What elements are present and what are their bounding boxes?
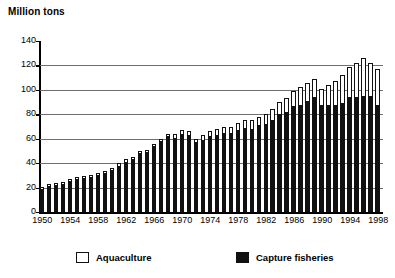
bar-segment-capture-fisheries [208,136,212,212]
bar [117,163,121,212]
bar [326,85,330,212]
bar [319,89,323,212]
x-axis-tick-label: 1962 [116,215,136,225]
y-axis-tick-label: 120 [2,60,36,69]
bar [257,117,261,212]
y-axis-tick-label: 60 [2,134,36,143]
y-axis-tick-label: 80 [2,109,36,118]
y-axis-tick-label: 0 [2,207,36,216]
legend-item-aquaculture: Aquaculture [76,252,151,263]
bar-segment-aquaculture [270,109,274,120]
capture-fisheries-swatch-icon [236,252,249,263]
bar [284,98,288,212]
bar-segment-capture-fisheries [222,133,226,212]
y-axis-tick-label: 20 [2,183,36,192]
bar [312,79,316,212]
page-title: Million tons [8,6,65,17]
bar-segment-aquaculture [368,63,372,96]
bar-segment-capture-fisheries [138,153,142,212]
bar [277,102,281,212]
bar-segment-capture-fisheries [333,105,337,212]
x-axis-tick-label: 1986 [284,215,304,225]
bar-segment-capture-fisheries [291,106,295,212]
bar-segment-capture-fisheries [124,162,128,212]
bar-segment-aquaculture [291,91,295,106]
bar-segment-capture-fisheries [347,97,351,212]
bar [201,135,205,212]
bar-segment-capture-fisheries [159,141,163,212]
bar-segment-capture-fisheries [340,103,344,212]
bar-segment-capture-fisheries [201,140,205,212]
bar [145,150,149,212]
bar [138,151,142,212]
bar [68,179,72,212]
aquaculture-swatch-icon [76,252,89,263]
bar [250,120,254,212]
x-axis-labels: 1950195419581962196619701974197819821986… [40,215,383,229]
bar [368,63,372,212]
bar-segment-capture-fisheries [117,166,121,212]
bar [166,134,170,212]
x-axis-tick-label: 1998 [368,215,388,225]
x-axis-tick-label: 1966 [144,215,164,225]
bar-segment-aquaculture [284,98,288,111]
bar-segment-capture-fisheries [103,173,107,212]
bar [194,139,198,212]
bar-segment-aquaculture [257,117,261,126]
bar-segment-capture-fisheries [166,136,170,212]
bar [243,120,247,212]
bar-segment-capture-fisheries [54,185,58,212]
bar-segment-capture-fisheries [298,105,302,212]
bar-segment-aquaculture [375,69,379,104]
x-axis-tick-label: 1970 [172,215,192,225]
x-axis-tick-label: 1990 [312,215,332,225]
bar-segment-aquaculture [333,81,337,104]
bar [347,67,351,212]
bar-segment-aquaculture [236,123,240,130]
bar-segment-aquaculture [264,114,268,124]
x-axis-tick-label: 1994 [340,215,360,225]
x-axis-tick-label: 1982 [256,215,276,225]
bar-segment-capture-fisheries [257,125,261,212]
y-axis-ticks: 020406080100120140 [0,41,36,212]
bar [61,182,65,212]
bar [229,127,233,212]
bar-segment-capture-fisheries [110,170,114,212]
bar [47,184,51,212]
bar-segment-aquaculture [347,67,351,98]
bar-series-container [40,41,383,212]
bar [54,183,58,212]
bar [152,144,156,212]
bar-segment-aquaculture [277,102,281,114]
bar-segment-capture-fisheries [229,133,233,212]
bar-segment-aquaculture [354,63,358,97]
x-axis-tick-label: 1954 [60,215,80,225]
bar-segment-aquaculture [305,83,309,101]
bar-segment-aquaculture [243,120,247,127]
bar-segment-capture-fisheries [236,130,240,212]
bar-segment-capture-fisheries [173,138,177,213]
bar [40,187,44,212]
bar-segment-aquaculture [312,79,316,97]
bar [159,139,163,212]
bar-segment-capture-fisheries [145,152,149,212]
bar [131,157,135,212]
bar-segment-capture-fisheries [243,128,247,212]
bar-segment-capture-fisheries [354,97,358,212]
x-axis-line [39,212,383,214]
bar-segment-capture-fisheries [75,179,79,212]
bar-segment-capture-fisheries [61,184,65,212]
x-axis-tick-label: 1958 [88,215,108,225]
legend-label-capture-fisheries: Capture fisheries [256,252,334,263]
bar-segment-capture-fisheries [215,135,219,212]
bar [298,87,302,212]
bar [82,176,86,212]
bar [187,131,191,212]
bar-segment-capture-fisheries [250,129,254,212]
bar [222,127,226,212]
bar [124,159,128,212]
bar-segment-capture-fisheries [284,112,288,212]
bar [180,130,184,212]
bar [103,171,107,212]
bar [236,123,240,212]
